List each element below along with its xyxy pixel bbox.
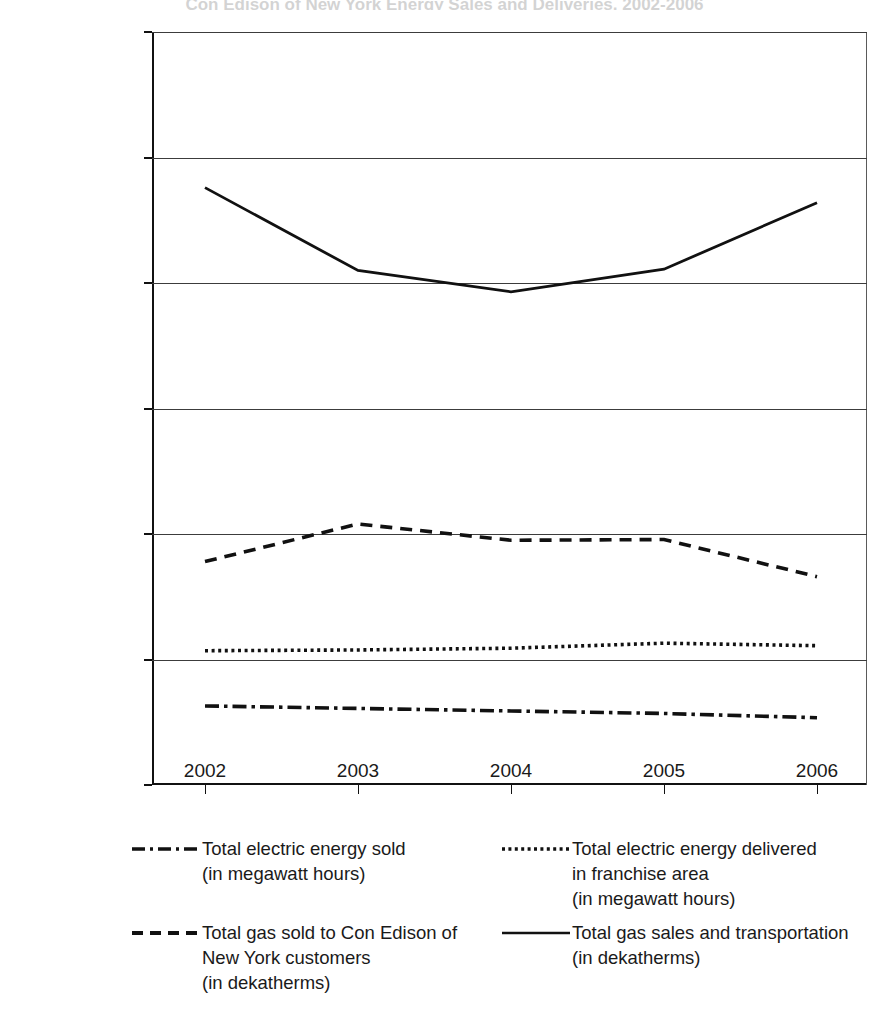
y-axis-tick (144, 157, 152, 159)
series-line-dashed (205, 524, 817, 577)
series-lines (152, 32, 867, 785)
legend-label: Total electric energy sold (in megawatt … (202, 836, 406, 886)
y-axis-tick (144, 282, 152, 284)
dashed-line-key (130, 923, 202, 943)
dash-dot-line-key (130, 839, 202, 859)
x-axis-tick (205, 785, 206, 794)
series-line-dotted (205, 643, 817, 651)
solid-line-key (500, 923, 572, 943)
y-axis-tick (144, 533, 152, 535)
x-axis-tick-label: 2006 (796, 760, 838, 782)
y-axis-tick (144, 784, 152, 786)
y-axis-tick (144, 659, 152, 661)
y-axis-tick (144, 408, 152, 410)
legend-label: Total gas sales and transportation (in d… (572, 920, 849, 970)
x-axis-tick-label: 2003 (337, 760, 379, 782)
x-axis-tick-label: 2002 (184, 760, 226, 782)
series-line-solid (205, 188, 817, 292)
legend-item-gas-sales-transportation: Total gas sales and transportation (in d… (500, 920, 849, 970)
chart-legend: Total electric energy sold (in megawatt … (0, 836, 889, 1029)
line-chart: 050,000,000100,000,000150,000,000200,000… (0, 0, 889, 830)
dotted-line-key (500, 839, 572, 859)
plot-area (152, 32, 867, 785)
legend-item-electric-energy-delivered: Total electric energy delivered in franc… (500, 836, 817, 911)
x-axis-tick (358, 785, 359, 794)
x-axis-tick-label: 2004 (490, 760, 532, 782)
x-axis-tick (664, 785, 665, 794)
legend-label: Total gas sold to Con Edison of New York… (202, 920, 457, 995)
x-axis-tick-label: 2005 (643, 760, 685, 782)
legend-item-electric-energy-sold: Total electric energy sold (in megawatt … (130, 836, 406, 886)
series-line-dash-dot (205, 706, 817, 718)
x-axis-tick (817, 785, 818, 794)
legend-label: Total electric energy delivered in franc… (572, 836, 817, 911)
legend-item-gas-sold: Total gas sold to Con Edison of New York… (130, 920, 457, 995)
x-axis-tick (511, 785, 512, 794)
y-axis-tick (144, 31, 152, 33)
